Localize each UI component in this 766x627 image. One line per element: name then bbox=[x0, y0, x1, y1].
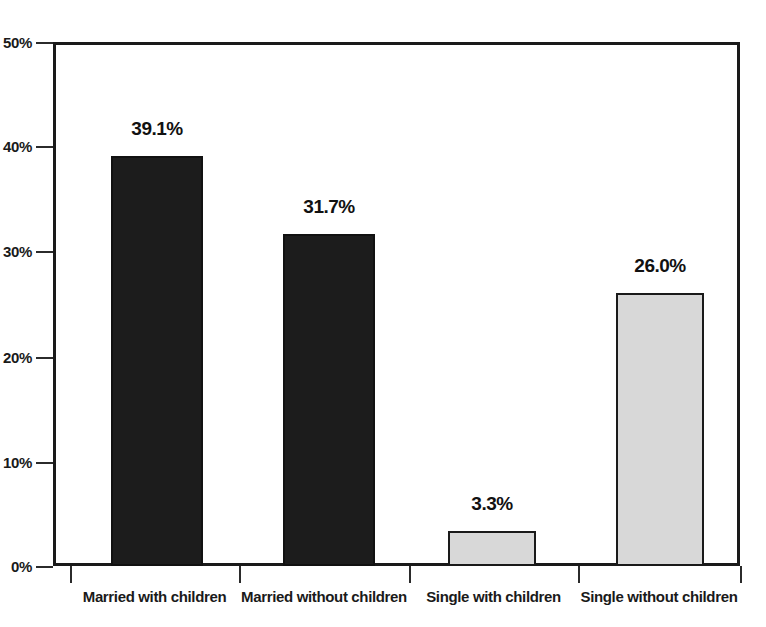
y-tick-mark-0 bbox=[36, 566, 53, 568]
x-axis-label-single-with-children: Single with children bbox=[409, 589, 578, 604]
x-tick-mark-4 bbox=[740, 566, 742, 583]
bar-married-without-children[interactable] bbox=[283, 234, 375, 566]
x-axis-label-married-with-children: Married with children bbox=[70, 589, 239, 604]
x-axis-label-married-without-children: Married without children bbox=[239, 589, 409, 604]
bar-single-without-children[interactable] bbox=[616, 293, 704, 566]
x-axis-label-single-without-children: Single without children bbox=[578, 589, 740, 604]
y-axis-label-30: 30% bbox=[3, 244, 32, 259]
bar-chart: 50% 40% 30% 20% 10% 0% 39.1% 31.7% 3.3% … bbox=[0, 0, 766, 627]
x-tick-mark-2 bbox=[409, 566, 411, 583]
x-tick-mark-0 bbox=[70, 566, 72, 583]
y-axis-label-10: 10% bbox=[3, 455, 32, 470]
value-label-single-without-children: 26.0% bbox=[616, 256, 704, 275]
y-tick-mark-40 bbox=[36, 146, 53, 148]
y-axis-label-40: 40% bbox=[3, 139, 32, 154]
value-label-married-with-children: 39.1% bbox=[111, 119, 203, 138]
y-tick-mark-10 bbox=[36, 462, 53, 464]
y-tick-mark-30 bbox=[36, 251, 53, 253]
bar-married-with-children[interactable] bbox=[111, 156, 203, 566]
y-axis-label-20: 20% bbox=[3, 350, 32, 365]
value-label-married-without-children: 31.7% bbox=[283, 197, 375, 216]
y-tick-mark-50 bbox=[36, 42, 53, 44]
y-tick-mark-20 bbox=[36, 357, 53, 359]
y-axis-label-50: 50% bbox=[3, 35, 32, 50]
bar-single-with-children[interactable] bbox=[448, 531, 536, 566]
value-label-single-with-children: 3.3% bbox=[448, 494, 536, 513]
y-axis-label-0: 0% bbox=[11, 559, 32, 574]
x-tick-mark-1 bbox=[239, 566, 241, 583]
x-tick-mark-3 bbox=[578, 566, 580, 583]
